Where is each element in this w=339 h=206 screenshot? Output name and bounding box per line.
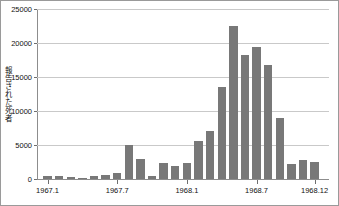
y-tick-label: 5000 — [1, 141, 32, 150]
x-tick-mark — [117, 180, 118, 184]
bar — [264, 65, 272, 179]
bar — [194, 141, 202, 179]
x-tick-mark — [187, 180, 188, 184]
bar — [206, 131, 214, 179]
bar — [159, 163, 167, 179]
bar — [125, 145, 133, 179]
bar — [171, 166, 179, 179]
bar — [183, 163, 191, 179]
x-tick-label: 1968.1 — [164, 186, 210, 195]
x-tick-label: 1967.7 — [94, 186, 140, 195]
bar — [136, 159, 144, 179]
x-tick-mark — [257, 180, 258, 184]
bar — [241, 55, 249, 179]
y-tick-label: 0 — [1, 175, 32, 184]
y-tick-label: 15000 — [1, 73, 32, 82]
x-axis-line — [37, 179, 329, 180]
x-axis: 1967.11967.71968.11968.71968.12 — [37, 179, 329, 206]
x-tick-mark — [48, 180, 49, 184]
plot-area: 0500010000150002000025000 — [37, 9, 329, 179]
x-tick-label: 1967.1 — [25, 186, 71, 195]
bar — [299, 160, 307, 179]
x-tick-mark — [315, 180, 316, 184]
y-tick-label: 10000 — [1, 107, 32, 116]
x-tick-label: 1968.12 — [292, 186, 338, 195]
bar — [229, 26, 237, 179]
x-tick-label: 1968.7 — [234, 186, 280, 195]
y-axis-title: 報告された死者 — [2, 39, 14, 149]
bar — [218, 87, 226, 179]
y-tick-label: 20000 — [1, 39, 32, 48]
bar — [276, 118, 284, 179]
bar-series — [37, 9, 329, 179]
bar — [310, 162, 318, 179]
chart-figure: 報告された死者 0500010000150002000025000 1967.1… — [0, 0, 339, 206]
bar — [287, 164, 295, 179]
bar — [252, 47, 260, 179]
y-tick-label: 25000 — [1, 5, 32, 14]
